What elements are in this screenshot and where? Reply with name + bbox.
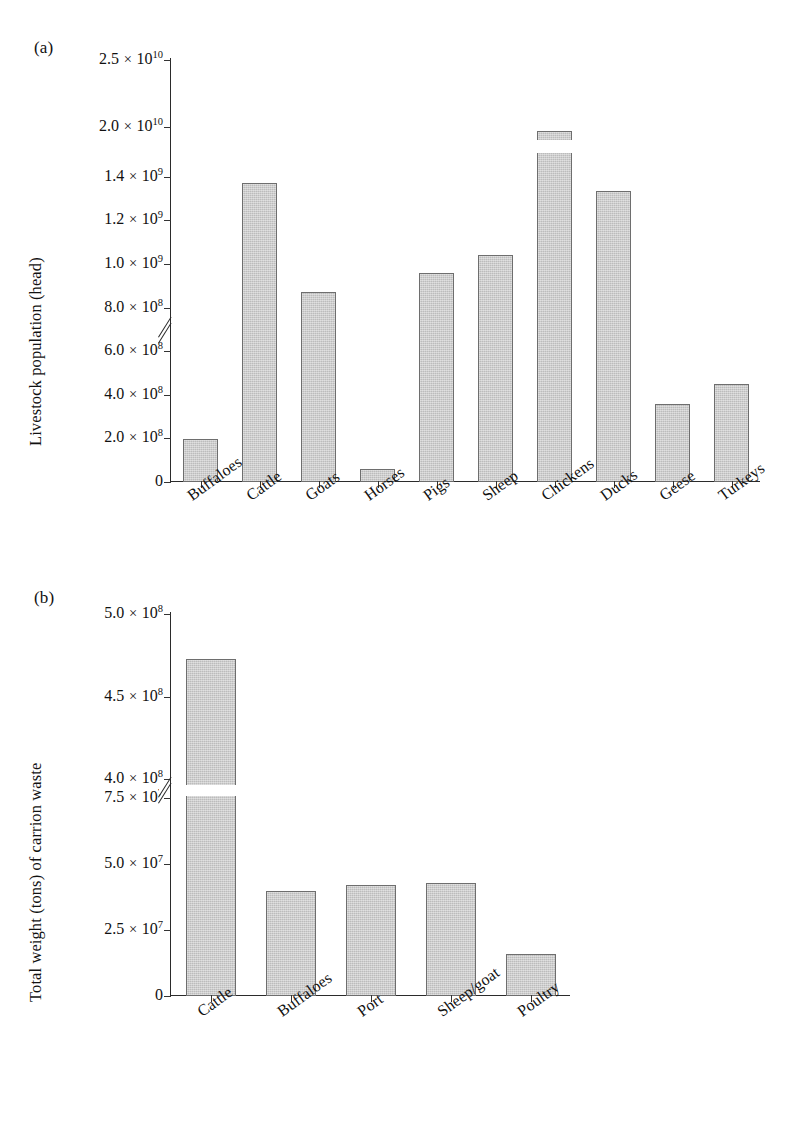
y-tick-mark	[164, 308, 171, 309]
bar	[419, 273, 454, 482]
y-tick-mark	[164, 614, 171, 615]
y-tick-mark	[164, 351, 171, 352]
bar	[242, 183, 277, 482]
panel-b-x-tick-labels: CattleBuffaloesPortSheep/goatPoultry	[0, 996, 789, 1116]
bar	[346, 885, 396, 996]
y-tick-mark	[164, 438, 171, 439]
panel-a-plot-area	[170, 58, 760, 482]
y-tick-mark	[164, 798, 171, 799]
y-tick-label: 1.0 × 109	[104, 255, 163, 271]
bar-axis-break-gap	[185, 785, 237, 796]
y-tick-label: 5.0 × 107	[104, 855, 163, 871]
y-tick-mark	[164, 60, 171, 61]
y-tick-mark	[164, 264, 171, 265]
y-tick-label: 4.5 × 108	[104, 688, 163, 704]
y-tick-mark	[164, 177, 171, 178]
figure-root: (a) Livestock population (head) 2.5 × 10…	[0, 0, 789, 1129]
y-tick-mark	[164, 697, 171, 698]
y-tick-label: 1.2 × 109	[104, 211, 163, 227]
y-tick-mark	[164, 779, 171, 780]
bar	[426, 883, 476, 996]
y-tick-mark	[164, 930, 171, 931]
y-tick-label: 5.0 × 108	[104, 605, 163, 621]
bar	[714, 384, 749, 482]
y-tick-label: 4.0 × 108	[104, 386, 163, 402]
y-tick-label: 7.5 × 107	[104, 789, 163, 805]
bar-axis-break-gap	[536, 140, 573, 153]
y-tick-label: 6.0 × 108	[104, 342, 163, 358]
y-tick-mark	[164, 395, 171, 396]
y-tick-label: 2.5 × 107	[104, 921, 163, 937]
y-tick-label: 4.0 × 108	[104, 770, 163, 786]
panel-a: (a) Livestock population (head) 2.5 × 10…	[0, 0, 789, 570]
y-tick-label: 8.0 × 108	[104, 299, 163, 315]
bar	[537, 131, 572, 482]
y-tick-mark	[164, 220, 171, 221]
y-tick-mark	[164, 864, 171, 865]
bar	[186, 659, 236, 996]
y-tick-label: 2.0 × 1010	[99, 118, 163, 134]
y-tick-label: 2.0 × 108	[104, 429, 163, 445]
panel-b-plot-area	[170, 612, 570, 996]
y-tick-label: 1.4 × 109	[104, 168, 163, 184]
bar	[596, 191, 631, 482]
y-tick-label: 2.5 × 1010	[99, 51, 163, 67]
panel-b: (b) Total weight (tons) of carrion waste…	[0, 570, 789, 1129]
y-tick-mark	[164, 127, 171, 128]
bar	[478, 255, 513, 482]
bar	[301, 292, 336, 482]
